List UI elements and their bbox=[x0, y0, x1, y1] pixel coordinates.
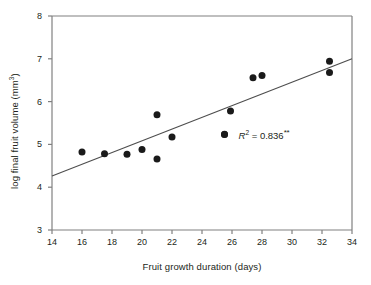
data-point bbox=[250, 74, 257, 81]
x-tick-marks bbox=[52, 230, 352, 234]
data-point bbox=[326, 69, 333, 76]
x-tick-label: 30 bbox=[280, 237, 304, 247]
scatter-plot-figure: 345678 1416182022242628303234 log final … bbox=[0, 0, 371, 285]
y-axis-title-text: log final fruit volume (mm bbox=[9, 80, 20, 189]
r-squared-equals: = bbox=[249, 130, 260, 141]
data-point bbox=[326, 58, 333, 65]
data-point bbox=[169, 134, 176, 141]
x-tick-label: 20 bbox=[130, 237, 154, 247]
annotation-point-marker bbox=[221, 131, 228, 138]
x-tick-label: 32 bbox=[310, 237, 334, 247]
x-tick-label: 18 bbox=[100, 237, 124, 247]
data-point bbox=[154, 111, 161, 118]
y-axis-title: log final fruit volume (mm3) bbox=[8, 16, 24, 246]
x-tick-label: 24 bbox=[190, 237, 214, 247]
x-tick-label: 16 bbox=[70, 237, 94, 247]
data-point bbox=[227, 108, 234, 115]
regression-trendline bbox=[52, 59, 352, 176]
data-point bbox=[154, 155, 161, 162]
x-tick-label: 28 bbox=[250, 237, 274, 247]
x-tick-label: 26 bbox=[220, 237, 244, 247]
data-point bbox=[79, 149, 86, 156]
y-axis-title-tail: ) bbox=[9, 73, 20, 76]
axis-frame bbox=[52, 16, 352, 230]
x-axis-title: Fruit growth duration (days) bbox=[52, 261, 352, 272]
y-axis-title-exponent: 3 bbox=[8, 76, 15, 80]
x-tick-label: 14 bbox=[40, 237, 64, 247]
r-squared-significance: ** bbox=[284, 128, 290, 137]
data-point bbox=[139, 146, 146, 153]
r-squared-annotation: R2 = 0.836** bbox=[239, 128, 290, 141]
data-point-group bbox=[79, 58, 334, 163]
data-point bbox=[124, 151, 131, 158]
x-tick-label: 34 bbox=[340, 237, 364, 247]
x-tick-label: 22 bbox=[160, 237, 184, 247]
data-point bbox=[101, 150, 108, 157]
r-squared-value: 0.836 bbox=[260, 130, 284, 141]
data-point bbox=[259, 72, 266, 79]
